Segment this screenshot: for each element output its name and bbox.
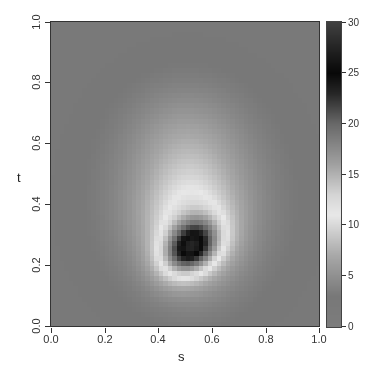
colorbar-tick-label: 10 [348, 219, 359, 230]
y-tick-label: 0.0 [30, 311, 44, 341]
y-tick [45, 326, 50, 327]
x-tick-label: 0.8 [251, 333, 281, 345]
y-tick-label: 1.0 [30, 7, 44, 37]
colorbar-tick [342, 174, 346, 175]
y-tick-label: 0.8 [30, 67, 44, 97]
colorbar-tick-label: 30 [348, 17, 359, 28]
colorbar [327, 22, 341, 327]
x-tick-label: 0.2 [90, 333, 120, 345]
colorbar-tick [342, 22, 346, 23]
x-axis-label: s [178, 349, 185, 364]
x-tick-label: 0.4 [143, 333, 173, 345]
x-tick-label: 0.6 [197, 333, 227, 345]
colorbar-tick-label: 20 [348, 118, 359, 129]
colorbar-tick-label: 0 [348, 321, 354, 332]
colorbar-tick [342, 275, 346, 276]
heatmap-plot-area [51, 22, 320, 327]
colorbar-tick [342, 72, 346, 73]
colorbar-tick-label: 25 [348, 67, 359, 78]
colorbar-tick [342, 224, 346, 225]
y-tick-label: 0.2 [30, 250, 44, 280]
colorbar-tick-label: 5 [348, 270, 354, 281]
y-tick [45, 265, 50, 266]
y-tick [45, 82, 50, 83]
y-axis-label: t [17, 170, 21, 185]
colorbar-tick [342, 123, 346, 124]
y-tick-label: 0.4 [30, 189, 44, 219]
y-tick [45, 143, 50, 144]
colorbar-tick-label: 15 [348, 169, 359, 180]
colorbar-tick [342, 326, 346, 327]
y-tick-label: 0.6 [30, 128, 44, 158]
y-tick [45, 204, 50, 205]
x-tick-label: 1.0 [304, 333, 334, 345]
y-tick [45, 22, 50, 23]
